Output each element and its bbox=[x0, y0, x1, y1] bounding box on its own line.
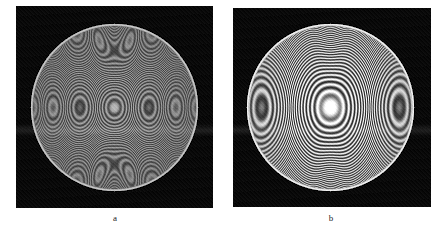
interferogram-image-b bbox=[233, 8, 431, 207]
interferogram-image-a bbox=[16, 6, 213, 208]
panel-a-caption: a bbox=[105, 213, 125, 224]
panel-a bbox=[16, 6, 213, 208]
panel-b bbox=[233, 8, 431, 207]
panel-b-caption: b bbox=[321, 213, 341, 224]
figure-container: a b bbox=[0, 0, 446, 233]
